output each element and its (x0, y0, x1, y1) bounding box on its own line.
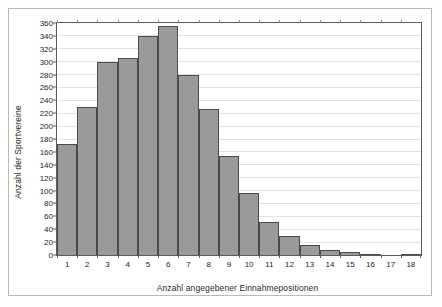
bar (77, 107, 97, 255)
bar (279, 236, 299, 255)
y-axis-tick-label: 300 (25, 57, 53, 66)
y-axis-tick-label: 280 (25, 70, 53, 79)
x-axis-tick-label: 18 (400, 260, 422, 269)
x-axis-tick-label: 1 (56, 260, 78, 269)
x-axis-tick-label: 6 (157, 260, 179, 269)
x-axis-tick-mark-top (57, 20, 58, 23)
y-axis-tick-mark (53, 100, 57, 101)
y-axis-tick-label: 40 (25, 225, 53, 234)
x-axis-tick-mark (118, 255, 119, 258)
y-axis-tick-label: 260 (25, 83, 53, 92)
x-axis-tick-mark-top (401, 20, 402, 23)
x-axis-tick-label: 15 (339, 260, 361, 269)
x-axis-tick-mark-top (239, 20, 240, 23)
x-axis-tick-label: 5 (137, 260, 159, 269)
x-axis-tick-label: 12 (279, 260, 301, 269)
y-axis-tick-label: 160 (25, 147, 53, 156)
bar (401, 254, 421, 256)
x-axis-tick-mark-top (381, 20, 382, 23)
x-axis-tick-mark-top (279, 20, 280, 23)
x-axis-tick-mark (360, 255, 361, 258)
x-axis-tick-label: 13 (299, 260, 321, 269)
x-axis-tick-label: 4 (117, 260, 139, 269)
x-axis-tick-mark-top (138, 20, 139, 23)
x-axis-tick-mark (77, 255, 78, 258)
y-axis-tick-mark (53, 126, 57, 127)
x-axis-tick-mark (239, 255, 240, 258)
y-axis-tick-label: 0 (25, 251, 53, 260)
x-axis-tick-mark (57, 255, 58, 258)
plot-area: 0204060801001201401601802002202402602803… (56, 22, 422, 256)
x-axis-tick-label: 2 (76, 260, 98, 269)
y-axis-tick-label: 360 (25, 19, 53, 28)
bar (300, 245, 320, 255)
y-axis-tick-label: 200 (25, 122, 53, 131)
x-axis-tick-mark-top (300, 20, 301, 23)
x-axis-tick-mark (420, 255, 421, 258)
gridline (57, 48, 421, 49)
bar (219, 156, 239, 255)
x-axis-title: Anzahl angegebener Einnahmepositionen (45, 283, 430, 293)
x-axis-tick-label: 9 (218, 260, 240, 269)
bar (97, 62, 117, 255)
y-axis-tick-label: 340 (25, 31, 53, 40)
x-axis-tick-label: 8 (198, 260, 220, 269)
y-axis-tick-mark (53, 74, 57, 75)
y-axis-tick-label: 320 (25, 44, 53, 53)
y-axis-tick-label: 100 (25, 186, 53, 195)
bar (340, 252, 360, 255)
x-axis-tick-label: 17 (380, 260, 402, 269)
x-axis-tick-mark-top (97, 20, 98, 23)
x-axis-tick-label: 7 (177, 260, 199, 269)
x-axis-tick-mark (199, 255, 200, 258)
y-axis-tick-mark (53, 48, 57, 49)
x-axis-tick-label: 3 (97, 260, 119, 269)
y-axis-tick-label: 180 (25, 135, 53, 144)
x-axis-tick-mark-top (178, 20, 179, 23)
bar (320, 250, 340, 255)
y-axis-tick-mark (53, 113, 57, 114)
x-axis-tick-mark (138, 255, 139, 258)
x-axis-tick-mark (97, 255, 98, 258)
x-axis-tick-mark-top (118, 20, 119, 23)
x-axis-tick-mark-top (360, 20, 361, 23)
x-axis-tick-label: 14 (319, 260, 341, 269)
x-axis-tick-mark (178, 255, 179, 258)
x-axis-tick-mark-top (199, 20, 200, 23)
x-axis-tick-mark (158, 255, 159, 258)
x-axis-tick-mark-top (259, 20, 260, 23)
bar (259, 222, 279, 256)
x-axis-tick-mark-top (158, 20, 159, 23)
chart-figure: Anzahl der Sportvereine 0204060801001201… (0, 0, 442, 307)
y-axis-tick-mark (53, 35, 57, 36)
bar (138, 36, 158, 255)
y-axis-tick-mark (53, 139, 57, 140)
x-axis-tick-mark (381, 255, 382, 258)
plot-inner: 0204060801001201401601802002202402602803… (57, 23, 421, 255)
y-axis-tick-label: 20 (25, 238, 53, 247)
x-axis-tick-mark-top (219, 20, 220, 23)
bar (239, 193, 259, 256)
x-axis-tick-mark (320, 255, 321, 258)
bar (360, 254, 380, 256)
y-axis-tick-label: 240 (25, 96, 53, 105)
y-axis-tick-mark (53, 61, 57, 62)
bar (158, 26, 178, 255)
x-axis-tick-mark (219, 255, 220, 258)
x-axis-tick-mark-top (340, 20, 341, 23)
x-axis-tick-mark (279, 255, 280, 258)
bar (57, 144, 77, 255)
gridline (57, 35, 421, 36)
y-axis-tick-label: 140 (25, 160, 53, 169)
x-axis-tick-mark (340, 255, 341, 258)
x-axis-tick-mark-top (320, 20, 321, 23)
bar (178, 75, 198, 255)
x-axis-tick-mark (259, 255, 260, 258)
x-axis-tick-mark-top (77, 20, 78, 23)
bar (118, 58, 138, 255)
x-axis-tick-label: 10 (238, 260, 260, 269)
y-axis-tick-label: 120 (25, 173, 53, 182)
x-axis-tick-label: 11 (258, 260, 280, 269)
x-axis-tick-mark (300, 255, 301, 258)
y-axis-tick-label: 220 (25, 109, 53, 118)
